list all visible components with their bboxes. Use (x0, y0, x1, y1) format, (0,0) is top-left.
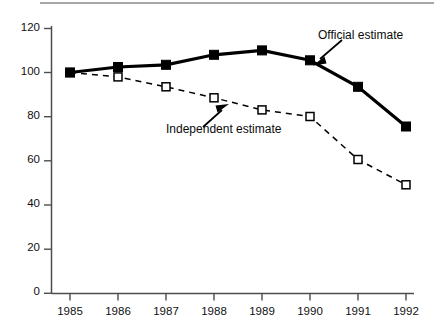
annotation-label-official-estimate: Official estimate (318, 28, 403, 42)
annotation-arrow-official-estimate (313, 40, 342, 66)
y-tick-label-0: 0 (4, 285, 40, 297)
x-tick-label-1987: 1987 (144, 305, 188, 317)
y-tick-label-100: 100 (4, 65, 40, 77)
line-chart: 120 100 80 60 40 20 0 1985 1986 1987 198… (0, 0, 434, 332)
annotation-label-independent-estimate: Independent estimate (166, 122, 281, 136)
y-tick-label-80: 80 (4, 109, 40, 121)
y-tick-label-40: 40 (4, 197, 40, 209)
x-tick-label-1991: 1991 (336, 305, 380, 317)
x-tick-label-1990: 1990 (288, 305, 332, 317)
x-tick-label-1988: 1988 (192, 305, 236, 317)
y-tick-label-60: 60 (4, 153, 40, 165)
y-tick-label-20: 20 (4, 241, 40, 253)
x-tick-label-1992: 1992 (384, 305, 428, 317)
x-tick-label-1986: 1986 (96, 305, 140, 317)
chart-canvas (0, 0, 434, 332)
x-tick-label-1989: 1989 (240, 305, 284, 317)
y-tick-label-120: 120 (4, 21, 40, 33)
x-tick-label-1985: 1985 (48, 305, 92, 317)
x-axis-ticks (70, 294, 406, 301)
series-markers-official-estimate (66, 46, 411, 131)
y-axis-ticks (44, 29, 52, 294)
